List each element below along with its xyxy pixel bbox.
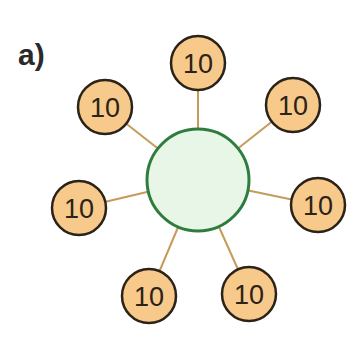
node-value: 10 xyxy=(234,280,264,310)
node-value: 10 xyxy=(134,282,164,312)
node-value: 10 xyxy=(303,191,333,221)
number-bond-diagram: 10101010101010 xyxy=(0,0,363,338)
node-value: 10 xyxy=(90,93,120,123)
number-node[interactable]: 10 xyxy=(291,178,345,232)
center-circle[interactable] xyxy=(147,129,249,231)
number-node[interactable]: 10 xyxy=(78,80,132,134)
node-value: 10 xyxy=(64,194,94,224)
number-node[interactable]: 10 xyxy=(222,267,276,321)
node-value: 10 xyxy=(278,91,308,121)
number-node[interactable]: 10 xyxy=(122,269,176,323)
node-value: 10 xyxy=(183,49,213,79)
number-node[interactable]: 10 xyxy=(171,36,225,90)
number-node[interactable]: 10 xyxy=(266,78,320,132)
number-node[interactable]: 10 xyxy=(52,181,106,235)
